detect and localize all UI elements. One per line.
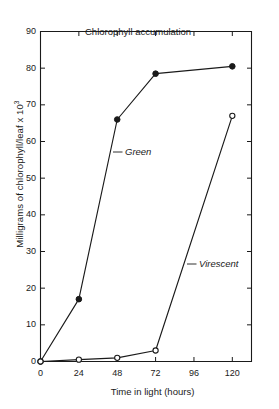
data-point-green-72 (153, 71, 159, 77)
label-leader-lines (113, 152, 197, 264)
data-point-green-48 (114, 117, 120, 123)
data-series-group (38, 64, 235, 365)
data-point-virescent-0 (38, 359, 43, 364)
data-point-green-24 (76, 296, 82, 302)
data-point-virescent-48 (115, 355, 120, 360)
data-point-virescent-120 (230, 113, 235, 118)
plot-area (0, 0, 279, 409)
series-label-virescent: Virescent (199, 258, 238, 269)
data-point-green-120 (230, 64, 236, 70)
series-line-green (41, 66, 233, 361)
chart-title: Chlorophyll accumulation (85, 26, 191, 37)
series-label-green: Green (125, 146, 151, 157)
data-point-virescent-72 (153, 348, 158, 353)
axis-ticks (41, 32, 252, 362)
data-point-virescent-24 (76, 357, 81, 362)
chart-figure: Milligrams of chlorophyll/leaf x 103 010… (0, 0, 279, 409)
axis-frame (41, 32, 252, 362)
